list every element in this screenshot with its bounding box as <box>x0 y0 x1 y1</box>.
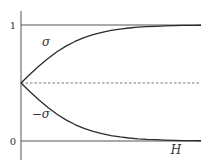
y-tick-labels: 01 <box>10 20 16 147</box>
chart: 01 H σ −σ <box>0 0 212 162</box>
annotation-minus-sigma: −σ <box>32 107 51 121</box>
y-tick-label-0: 0 <box>10 136 16 147</box>
x-axis-label: H <box>170 143 182 157</box>
y-tick-label-1: 1 <box>10 20 16 31</box>
annotation-sigma: σ <box>42 35 51 49</box>
series-sigma-line <box>21 25 201 83</box>
